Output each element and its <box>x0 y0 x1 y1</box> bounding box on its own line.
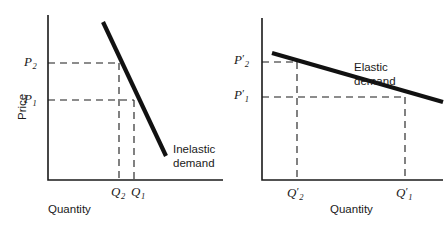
quantity-low-symbol: Q <box>111 184 120 199</box>
price-low-tick-label: P1 <box>24 92 36 106</box>
quantity-high-subscript: 1 <box>408 192 412 202</box>
price-high-prime: ′ <box>241 52 243 64</box>
elastic-demand-label-line1: Elastic <box>354 60 396 74</box>
elastic-demand-chart: P′2 P′1 Q′2 Q′1 Quantity Elastic demand <box>223 0 446 225</box>
price-low-tick-label: P′1 <box>234 88 249 102</box>
price-high-subscript: 2 <box>32 61 36 71</box>
price-low-prime: ′ <box>241 87 243 99</box>
price-high-tick-label: P′2 <box>234 53 249 67</box>
inelastic-demand-chart: Price P2 P1 Q2 Q1 Quantity Inelastic dem… <box>0 0 223 225</box>
quantity-low-symbol: Q <box>287 185 296 200</box>
inelastic-demand-curve <box>103 22 166 156</box>
quantity-high-prime: ′ <box>405 185 407 197</box>
price-low-subscript: 1 <box>245 94 249 104</box>
x-axis-title: Quantity <box>330 203 373 215</box>
price-high-subscript: 2 <box>245 59 249 69</box>
quantity-high-tick-label: Q1 <box>131 185 145 199</box>
quantity-low-subscript: 2 <box>121 191 125 201</box>
price-low-symbol: P <box>24 91 32 106</box>
inelastic-demand-label-line2: demand <box>173 156 215 170</box>
quantity-low-prime: ′ <box>296 185 298 197</box>
price-low-subscript: 1 <box>32 98 36 108</box>
quantity-high-subscript: 1 <box>141 191 145 201</box>
price-high-tick-label: P2 <box>24 55 36 69</box>
inelastic-demand-label: Inelastic demand <box>173 142 215 170</box>
quantity-high-symbol: Q <box>131 184 140 199</box>
inelastic-demand-label-line1: Inelastic <box>173 142 215 156</box>
elastic-demand-label: Elastic demand <box>354 60 396 88</box>
demand-elasticity-figure: Price P2 P1 Q2 Q1 Quantity Inelastic dem… <box>0 0 447 225</box>
x-axis-title: Quantity <box>48 203 91 215</box>
quantity-low-tick-label: Q2 <box>111 185 125 199</box>
quantity-high-tick-label: Q′1 <box>396 186 412 200</box>
elastic-demand-label-line2: demand <box>354 74 396 88</box>
price-high-symbol: P <box>24 54 32 69</box>
quantity-low-tick-label: Q′2 <box>287 186 303 200</box>
axis-lines <box>262 18 443 180</box>
quantity-low-subscript: 2 <box>299 192 303 202</box>
quantity-high-symbol: Q <box>396 185 405 200</box>
